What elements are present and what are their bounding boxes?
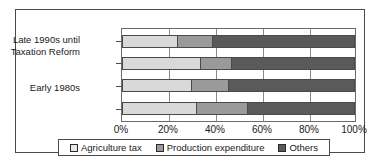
bar-segment-others: [213, 35, 355, 48]
category-label-late-1990s: Late 1990s until Taxation Reform: [0, 34, 80, 57]
legend-label: Agriculture tax: [81, 142, 142, 153]
bar-segment-others: [232, 57, 355, 70]
bar-row: [122, 57, 355, 70]
bar-row: [122, 79, 355, 92]
bar-segment-production-expenditure: [201, 57, 231, 70]
xtick-label-80: 80%: [299, 124, 319, 135]
chart-legend: Agriculture tax Production expenditure O…: [58, 139, 330, 156]
bar-segment-agriculture-tax: [122, 79, 192, 92]
bar-segment-others: [248, 102, 355, 115]
bar-segment-production-expenditure: [178, 35, 213, 48]
legend-entry-production-expenditure: Production expenditure: [156, 142, 265, 153]
xtick-label-60: 60%: [252, 124, 272, 135]
bar-segment-agriculture-tax: [122, 102, 197, 115]
bar-segment-agriculture-tax: [122, 57, 201, 70]
legend-swatch-icon: [156, 144, 164, 152]
legend-entry-agriculture-tax: Agriculture tax: [70, 142, 142, 153]
legend-entry-others: Others: [278, 142, 318, 153]
legend-swatch-icon: [70, 144, 78, 152]
chart-frame: Late 1990s until Taxation Reform Early 1…: [15, 9, 365, 153]
chart-figure: Late 1990s until Taxation Reform Early 1…: [0, 0, 380, 164]
bar-row: [122, 35, 355, 48]
bar-segment-production-expenditure: [192, 79, 229, 92]
xtick-label-0: 0%: [114, 124, 128, 135]
legend-label: Others: [289, 142, 318, 153]
bar-segment-production-expenditure: [197, 102, 248, 115]
bar-row: [122, 102, 355, 115]
bar-segment-agriculture-tax: [122, 35, 178, 48]
xtick-label-20: 20%: [158, 124, 178, 135]
xtick-label-100: 100%: [341, 124, 367, 135]
bar-segment-others: [229, 79, 355, 92]
category-label-early-1980s: Early 1980s: [0, 82, 80, 94]
xtick-label-40: 40%: [205, 124, 225, 135]
plot-area: [121, 28, 356, 122]
legend-swatch-icon: [278, 144, 286, 152]
legend-label: Production expenditure: [167, 142, 265, 153]
